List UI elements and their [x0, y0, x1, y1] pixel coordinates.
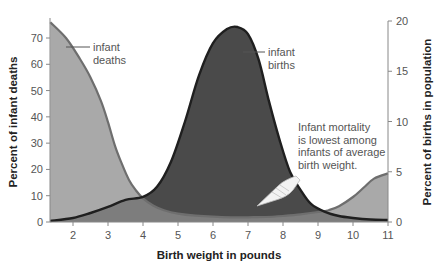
x-tick-label: 4	[140, 229, 146, 241]
x-axis-title: Birth weight in pounds	[157, 249, 282, 261]
x-tick-label: 11	[382, 229, 393, 241]
right-y-tick-label: 10	[396, 116, 408, 128]
x-tick-label: 3	[105, 229, 111, 241]
left-y-tick-label: 10	[31, 190, 43, 202]
right-y-tick-label: 15	[396, 65, 408, 77]
infant-deaths-label: deaths	[93, 54, 127, 66]
x-tick-label: 7	[245, 229, 251, 241]
mortality-note: birth weight.	[298, 159, 357, 171]
left-y-tick-label: 40	[31, 111, 43, 123]
infant-births-label: births	[268, 59, 295, 71]
left-y-tick-label: 20	[31, 163, 43, 175]
infant-births-label: infant	[268, 46, 295, 58]
right-y-tick-label: 20	[396, 15, 408, 27]
x-tick-label: 5	[175, 229, 181, 241]
infant-deaths-label: infant	[93, 41, 120, 53]
left-axis-title: Percent of infant deaths	[7, 57, 19, 188]
left-y-tick-label: 50	[31, 85, 43, 97]
mortality-note: is lowest among	[298, 134, 377, 146]
left-y-tick-label: 0	[37, 216, 43, 228]
right-y-tick-label: 0	[396, 216, 402, 228]
right-y-tick-label: 5	[396, 166, 402, 178]
x-tick-label: 10	[347, 229, 359, 241]
x-tick-label: 2	[70, 229, 76, 241]
x-tick-label: 8	[280, 229, 286, 241]
x-tick-label: 9	[315, 229, 321, 241]
right-axis-title: Percent of births in population	[421, 39, 433, 206]
left-y-tick-label: 60	[31, 58, 43, 70]
mortality-note: Infant mortality	[298, 121, 371, 133]
x-tick-label: 6	[210, 229, 216, 241]
left-y-tick-label: 30	[31, 137, 43, 149]
left-y-tick-label: 70	[31, 32, 43, 44]
mortality-note: infants of average	[298, 146, 385, 158]
birth-weight-mortality-chart: 23456789101101020304050607005101520 infa…	[0, 0, 444, 272]
